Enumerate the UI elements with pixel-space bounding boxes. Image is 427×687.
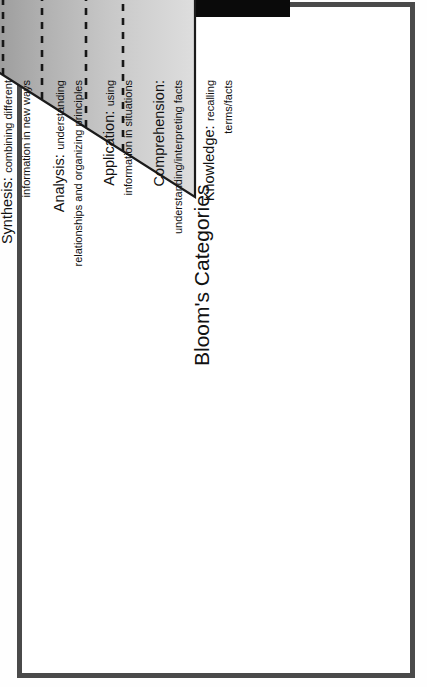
bloom-label-analysis: Analysis: understanding relationships an… (50, 80, 86, 330)
bloom-desc-line1: understanding (54, 80, 66, 150)
bloom-label-knowledge: Knowledge: recalling terms/facts (200, 80, 236, 270)
bloom-desc-line1: combining different (2, 80, 14, 173)
bloom-desc-line2: relationships and organizing principles (72, 80, 84, 267)
bloom-desc-line1: recalling (204, 80, 216, 121)
bloom-term: Knowledge: (201, 125, 217, 201)
bloom-label-comprehension: Comprehension: understanding/interpretin… (150, 80, 186, 310)
bloom-label-application: Application: using information in situat… (100, 80, 136, 270)
bloom-term: Synthesis: (0, 177, 15, 244)
rotated-page-wrapper: Taxonomy of Learning (0, 0, 427, 687)
bloom-desc-line2: terms/facts (222, 80, 234, 134)
bloom-desc-line2: information in new ways (20, 80, 32, 197)
bloom-term: Comprehension: (151, 80, 167, 186)
bloom-desc-line1: using (104, 80, 116, 106)
diagram-canvas: Taxonomy of Learning (0, 0, 297, 390)
bloom-desc-line1: understanding/interpreting facts (172, 80, 184, 234)
bloom-label-synthesis: Synthesis: combining different informati… (0, 80, 34, 270)
taxonomy-triangle-graphic (0, 0, 297, 390)
bloom-term: Application: (101, 111, 117, 186)
bloom-desc-line2: information in situations (122, 80, 134, 196)
bloom-term: Analysis: (51, 154, 67, 212)
